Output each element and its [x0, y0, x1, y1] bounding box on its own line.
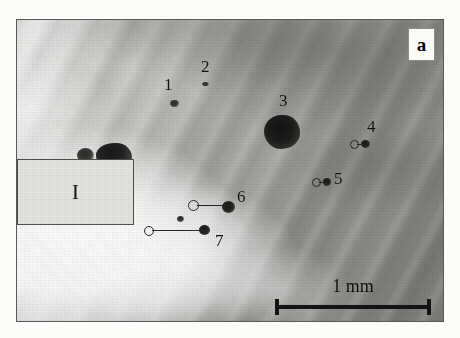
marker-label-5: 5 [334, 170, 343, 187]
marker-5-ring [312, 178, 321, 187]
scale-bar-cap-right [427, 299, 431, 315]
marker-label-6: 6 [237, 188, 246, 205]
marker-label-1: 1 [164, 76, 173, 93]
marker-6-ring [188, 200, 199, 211]
marker-6-spot [222, 201, 235, 213]
marker-2-spot [202, 82, 209, 86]
marker-3-spot [264, 115, 300, 149]
marker-label-4: 4 [367, 118, 376, 135]
marker-label-2: 2 [201, 58, 210, 75]
marker-7-leader-line [152, 230, 206, 231]
marker-4-ring [350, 140, 359, 149]
marker-label-7: 7 [215, 232, 224, 249]
panel-letter-badge: a [408, 28, 435, 61]
micrograph-panel: 1234567 I a 1 mm [16, 19, 444, 322]
panel-letter-text: a [417, 35, 427, 54]
edge-blob-tiny [177, 216, 184, 222]
inset-region-label: I [72, 181, 79, 203]
marker-6-leader-line [197, 205, 229, 206]
marker-7-ring [144, 226, 154, 236]
marker-1-spot [170, 100, 179, 107]
scale-bar: 1 mm [275, 299, 431, 315]
inset-region-box: I [17, 159, 134, 225]
figure-root: 1234567 I a 1 mm [0, 0, 460, 338]
scale-bar-label: 1 mm [275, 277, 431, 295]
scale-bar-cap-left [275, 299, 279, 315]
marker-label-3: 3 [279, 92, 288, 109]
scale-bar-line [275, 305, 431, 309]
